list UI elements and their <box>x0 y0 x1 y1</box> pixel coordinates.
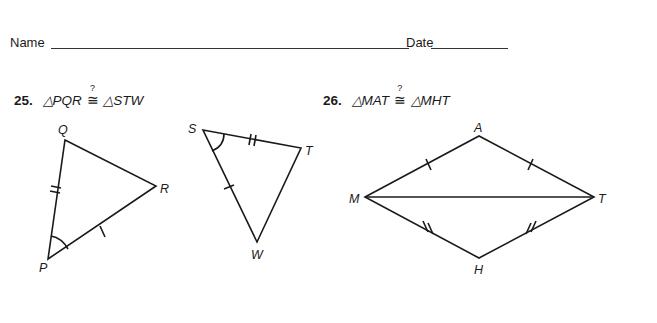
tick-mark <box>254 135 256 146</box>
geometry-figures: Q R P S T W A M T H <box>0 0 657 323</box>
triangle-pqr <box>48 140 156 259</box>
tick-mark <box>249 134 251 145</box>
angle-arc <box>212 134 224 151</box>
tick-mark <box>100 226 105 237</box>
vertex-label-s: S <box>188 122 197 136</box>
vertex-label-r: R <box>160 182 169 196</box>
vertex-label-w: W <box>251 248 264 262</box>
tick-mark <box>423 221 428 232</box>
vertex-label-t: T <box>598 192 607 206</box>
vertex-label-m: M <box>349 192 360 206</box>
tick-mark <box>531 221 536 232</box>
vertex-label-p: P <box>39 261 48 275</box>
tick-mark <box>50 191 60 193</box>
vertex-label-h: H <box>474 263 484 277</box>
vertex-label-a: A <box>473 121 482 135</box>
vertex-label-t: T <box>305 144 314 158</box>
vertex-label-q: Q <box>58 123 68 137</box>
tick-mark <box>51 186 61 188</box>
